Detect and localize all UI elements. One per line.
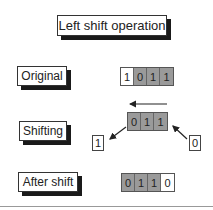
out-arrow-icon	[110, 127, 126, 139]
bit: 0	[122, 174, 135, 191]
after-shift-label: After shift	[23, 176, 74, 188]
after-shift-bits: 0 1 1 0	[121, 173, 175, 192]
in-arrow-icon	[173, 126, 187, 139]
bit: 1	[148, 174, 161, 191]
after-shift-label-box: After shift	[18, 172, 78, 192]
bottom-rule	[0, 206, 213, 207]
bit: 0	[161, 174, 174, 191]
bit: 1	[135, 174, 148, 191]
